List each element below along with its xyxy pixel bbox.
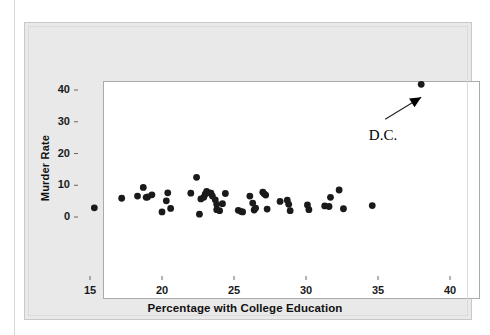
x-axis-title: Percentage with College Education [147, 302, 342, 314]
y-tick-label: 20 [40, 147, 70, 159]
x-tick-label: 25 [214, 284, 254, 296]
dc-annotation-label: D.C. [369, 127, 397, 144]
x-tick-label: 40 [430, 284, 470, 296]
x-tick-label: 35 [358, 284, 398, 296]
y-tick-label: 0 [40, 210, 70, 222]
x-tick-label: 20 [142, 284, 182, 296]
x-tick-label: 15 [70, 284, 110, 296]
y-axis-title: Murder Rate [39, 135, 51, 201]
figure-panel [24, 22, 472, 320]
y-tick-label: 10 [40, 178, 70, 190]
x-tick-label: 30 [286, 284, 326, 296]
y-tick-label: 30 [40, 115, 70, 127]
page-edge-line [14, 0, 15, 335]
y-tick-label: 40 [40, 83, 70, 95]
plot-area [103, 81, 480, 299]
